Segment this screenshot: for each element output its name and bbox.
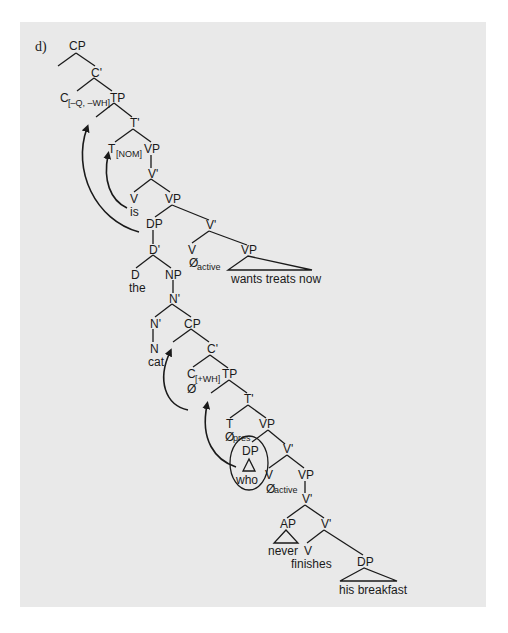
null-active1-sub: active: [197, 262, 221, 272]
node-v-finishes: V: [304, 544, 312, 558]
node-vbar-rel: V': [283, 442, 293, 456]
node-c-top-features: [–Q, –WH]: [68, 98, 110, 108]
word-never: never: [268, 544, 298, 558]
node-d: D: [131, 268, 140, 282]
node-ap: AP: [280, 517, 296, 531]
word-the: the: [129, 281, 146, 295]
tree-nodes: CP C' C [–Q, –WH] TP T' T [NOM] VP V' V …: [60, 39, 408, 597]
node-t-rel: T: [226, 417, 234, 431]
node-v-is: V: [130, 192, 138, 206]
figure-label: d): [35, 39, 47, 55]
node-dbar: D': [149, 243, 160, 257]
node-dp-who: DP: [242, 444, 259, 458]
node-vbar1: V': [148, 167, 158, 181]
null-c: Ø: [187, 382, 196, 396]
node-vp-rel2: VP: [298, 468, 314, 482]
node-t-top-features: [NOM]: [116, 149, 142, 159]
node-vbar-rel2: V': [302, 492, 312, 506]
node-vbar-rel3: V': [321, 517, 331, 531]
word-who: who: [235, 473, 258, 487]
node-n: N: [150, 342, 159, 356]
node-vbar2: V': [206, 218, 216, 232]
node-vp-wants: VP: [241, 243, 257, 257]
node-vp2: VP: [165, 192, 181, 206]
word-is: is: [130, 205, 139, 219]
node-vp-rel: VP: [259, 417, 275, 431]
node-nbar-upper: N': [169, 292, 180, 306]
arrow-verb-raising: [106, 155, 127, 208]
node-cp-top: CP: [69, 39, 86, 53]
node-tbar-top: T': [130, 116, 140, 130]
node-tbar-rel: T': [244, 392, 254, 406]
node-v-active1: V: [188, 243, 196, 257]
node-dp-subject: DP: [146, 217, 163, 231]
null-pres-sub: pres: [233, 433, 251, 443]
null-active2-sub: active: [274, 485, 298, 495]
movement-arrows: [82, 128, 236, 467]
word-cat: cat: [148, 355, 165, 369]
phrase-wants-treats-now: wants treats now: [230, 272, 321, 286]
node-np: NP: [165, 268, 182, 282]
syntax-tree: d): [0, 0, 508, 633]
node-cbar-top: C': [91, 66, 102, 80]
node-cbar-rel: C': [207, 342, 218, 356]
node-vp1: VP: [144, 142, 160, 156]
node-dp-object: DP: [357, 555, 374, 569]
word-finishes: finishes: [291, 557, 332, 571]
node-nbar-lower: N': [150, 317, 161, 331]
tree-edges: [58, 53, 397, 581]
node-v-active2: V: [265, 468, 273, 482]
phrase-his-breakfast: his breakfast: [339, 583, 408, 597]
node-t-top: T: [108, 142, 116, 156]
node-c-rel-features: [+WH]: [195, 374, 220, 384]
node-cp-rel: CP: [184, 317, 201, 331]
arrow-wh-to-spec-cp: [164, 352, 188, 410]
node-tp-rel: TP: [222, 367, 237, 381]
node-tp-top: TP: [110, 91, 125, 105]
